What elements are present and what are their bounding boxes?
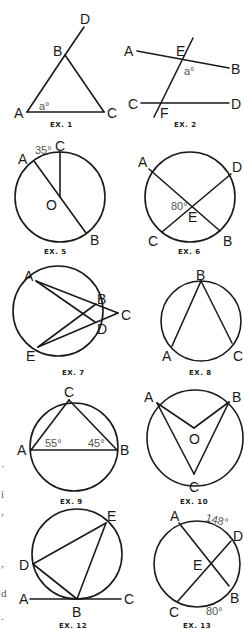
edge-fragment: i bbox=[1, 488, 4, 500]
point-label-c: C bbox=[128, 96, 138, 112]
point-label-d: D bbox=[19, 557, 29, 573]
example-10-figure: A B C O EX. 10 bbox=[144, 389, 243, 506]
edge-fragment: , bbox=[1, 557, 4, 569]
example-caption: EX. 2 bbox=[174, 121, 197, 129]
point-label-a: A bbox=[144, 389, 154, 405]
point-label-a: A bbox=[14, 105, 24, 121]
point-label-a: A bbox=[24, 268, 34, 284]
point-label-a: A bbox=[19, 591, 29, 607]
point-label-c: C bbox=[169, 604, 179, 620]
segment-bc bbox=[65, 55, 104, 112]
point-label-a: A bbox=[162, 348, 172, 364]
figures-canvas: · i , , d . A B C D a° EX. 1 A B C D E F… bbox=[0, 0, 244, 629]
point-label-a: A bbox=[17, 442, 27, 458]
example-2-figure: A B C D E F a° EX. 2 bbox=[124, 38, 241, 129]
point-label-c: C bbox=[121, 307, 131, 323]
example-6-figure: A B C D E 80° EX. 6 bbox=[138, 152, 242, 256]
example-7-figure: A B C D E EX. 7 bbox=[13, 266, 131, 377]
point-label-a: A bbox=[124, 43, 134, 59]
geometry-figures-page: · i , , d . A B C D a° EX. 1 A B C D E F… bbox=[0, 0, 244, 629]
example-5-figure: A B C O 35° EX. 5 bbox=[15, 138, 105, 256]
angle-label: 80° bbox=[171, 200, 188, 212]
example-caption: EX. 12 bbox=[59, 622, 87, 629]
example-9-figure: A B C 55° 45° EX. 9 bbox=[17, 384, 129, 506]
point-label-c: C bbox=[233, 348, 243, 364]
point-label-c: C bbox=[107, 105, 117, 121]
point-label-e: E bbox=[107, 508, 116, 524]
circle bbox=[145, 152, 235, 242]
edge-fragment: . bbox=[1, 610, 4, 622]
angle-label: a° bbox=[184, 65, 195, 77]
point-label-b: B bbox=[53, 43, 62, 59]
chord-de bbox=[33, 523, 106, 564]
point-label-b: B bbox=[231, 61, 240, 77]
point-label-d: D bbox=[232, 159, 242, 175]
point-label-d: D bbox=[97, 321, 107, 337]
circle bbox=[161, 281, 241, 361]
example-caption: EX. 7 bbox=[62, 369, 85, 377]
point-label-e: E bbox=[193, 557, 202, 573]
circle bbox=[30, 403, 118, 491]
point-label-e: E bbox=[188, 209, 197, 225]
angle-label-b: 45° bbox=[88, 437, 105, 449]
point-label-c: C bbox=[189, 479, 199, 495]
edge-fragment: , bbox=[1, 505, 4, 517]
point-label-c: C bbox=[64, 384, 74, 400]
point-label-c: C bbox=[148, 233, 158, 249]
example-8-figure: B A C EX. 8 bbox=[161, 267, 243, 377]
radius-ob bbox=[194, 402, 229, 428]
point-label-b: B bbox=[223, 233, 232, 249]
point-label-c: C bbox=[55, 138, 65, 154]
point-label-c: C bbox=[124, 591, 134, 607]
chord-cd bbox=[178, 541, 231, 601]
example-12-figure: E D A B C EX. 12 bbox=[19, 508, 134, 629]
chord-eb bbox=[77, 523, 106, 599]
point-label-f: F bbox=[160, 105, 169, 121]
point-label-b: B bbox=[232, 389, 241, 405]
point-label-o: O bbox=[46, 197, 57, 213]
example-13-figure: A D E B C 148° 80° EX. 13 bbox=[154, 508, 243, 629]
radius-oa bbox=[157, 403, 194, 428]
example-1-figure: A B C D a° EX. 1 bbox=[14, 11, 117, 129]
point-label-b: B bbox=[196, 267, 205, 283]
example-caption: EX. 6 bbox=[178, 248, 201, 256]
chord-ad bbox=[36, 281, 95, 322]
arc-label-ad: 148° bbox=[205, 511, 230, 528]
angle-label: 35° bbox=[35, 144, 52, 156]
ray-bd bbox=[65, 27, 84, 55]
point-label-d: D bbox=[231, 96, 241, 112]
left-edge-fragments: · i , , d . bbox=[1, 460, 7, 622]
point-label-b: B bbox=[230, 590, 239, 606]
example-caption: EX. 13 bbox=[183, 622, 211, 629]
example-caption: EX. 8 bbox=[189, 369, 212, 377]
chord-ba bbox=[172, 281, 201, 346]
point-label-b: B bbox=[97, 291, 106, 307]
point-label-b: B bbox=[72, 604, 81, 620]
point-label-a: A bbox=[138, 154, 148, 170]
angle-label: a° bbox=[39, 100, 50, 112]
point-label-e: E bbox=[176, 43, 185, 59]
point-label-a: A bbox=[170, 508, 180, 524]
point-label-o: O bbox=[189, 431, 200, 447]
example-caption: EX. 10 bbox=[180, 498, 208, 506]
point-label-e: E bbox=[26, 348, 35, 364]
point-label-a: A bbox=[18, 151, 28, 167]
angle-label-a: 55° bbox=[45, 437, 62, 449]
point-label-b: B bbox=[90, 232, 99, 248]
point-label-d: D bbox=[80, 11, 90, 27]
point-label-d: D bbox=[233, 528, 243, 544]
edge-fragment: · bbox=[1, 460, 5, 472]
example-caption: EX. 9 bbox=[60, 498, 83, 506]
chord-ab bbox=[179, 523, 229, 586]
arc-label-cb: 80° bbox=[206, 605, 223, 617]
example-caption: EX. 1 bbox=[50, 121, 73, 129]
example-caption: EX. 5 bbox=[44, 248, 67, 256]
edge-fragment: d bbox=[1, 587, 7, 599]
point-label-b: B bbox=[120, 442, 129, 458]
